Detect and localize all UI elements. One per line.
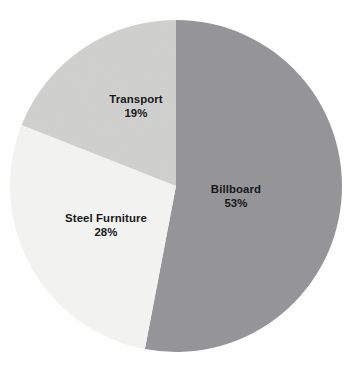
pie-chart: Billboard 53% Steel Furniture 28% Transp… xyxy=(0,0,353,368)
pie-chart-canvas xyxy=(0,0,353,368)
pie-slice-group xyxy=(10,20,342,352)
